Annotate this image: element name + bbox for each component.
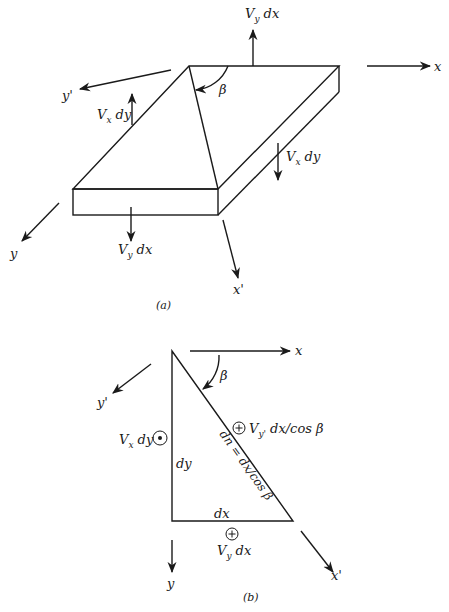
beta-label-b: β — [219, 368, 228, 383]
y-axis-label-b: y — [166, 576, 175, 591]
x-prime-axis-arrow-b — [301, 531, 333, 572]
x-axis-label-b: x — [295, 343, 303, 358]
circle-dot-icon — [153, 431, 167, 445]
force-label-vy-dx-top: Vy dx — [245, 6, 280, 24]
y-axis-label: y — [9, 246, 18, 261]
x-prime-axis-label-b: x' — [331, 568, 342, 583]
plate-front-face — [73, 189, 218, 215]
caption-b: (b) — [243, 591, 259, 604]
circle-plus-icon-bottom — [226, 528, 238, 540]
beta-label: β — [218, 82, 227, 97]
x-axis-label: x — [434, 59, 442, 74]
force-label-vy-dx-b: Vy dx — [217, 543, 252, 561]
y-prime-axis-arrow-b — [113, 364, 151, 393]
y-prime-axis-label-b: y' — [96, 395, 108, 410]
force-label-vx-dy-right: Vx dy — [286, 149, 321, 167]
diagram-canvas: β Vy dx x y' Vx dy Vx dy Vy dx y x' (a) … — [0, 0, 449, 612]
x-prime-axis-arrow — [223, 220, 238, 278]
dx-label: dx — [214, 506, 230, 521]
force-label-vy-dx-bottom: Vy dx — [118, 242, 153, 260]
dy-label: dy — [176, 456, 192, 471]
figure-a: β Vy dx x y' Vx dy Vx dy Vy dx y x' (a) — [9, 6, 442, 312]
figure-b: x β y' Vy' dx/cos β dn = dx/cos β Vx dy … — [96, 343, 342, 604]
force-label-vx-dy-left: Vx dy — [97, 107, 132, 125]
y-prime-axis-arrow — [80, 70, 171, 89]
x-prime-axis-label: x' — [233, 282, 244, 297]
y-axis-arrow — [22, 203, 59, 241]
force-label-vx-dy-b: Vx dy — [119, 432, 154, 450]
caption-a: (a) — [156, 299, 171, 312]
hypotenuse-label: dn = dx/cos β — [217, 428, 276, 503]
circle-plus-icon — [233, 422, 245, 434]
y-prime-axis-label: y' — [61, 88, 73, 103]
beta-angle-arc-b — [203, 355, 219, 389]
force-label-vyp: Vy' dx/cos β — [249, 421, 324, 439]
